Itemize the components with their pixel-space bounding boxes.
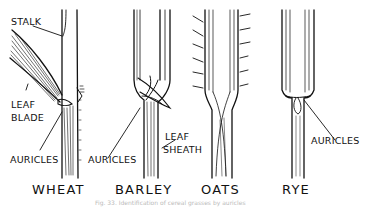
cereal-auricles-diagram: STALK LEAF BLADE AURICLES AURICLES LEAF … (0, 0, 383, 208)
figure-caption: Fig. 33. Identification of cereal grasse… (95, 199, 246, 206)
wheat-drawing (10, 10, 84, 178)
rye-drawing (282, 10, 335, 178)
label-leaf-blade-2: BLADE (11, 113, 44, 123)
plant-name-rye: RYE (282, 182, 310, 197)
plant-name-oats: OATS (201, 182, 240, 197)
label-auricles-barley: AURICLES (88, 155, 136, 165)
line-drawing (0, 0, 383, 208)
label-leaf-blade-1: LEAF (11, 100, 35, 110)
label-auricles-rye: AURICLES (311, 136, 359, 146)
plant-name-barley: BARLEY (115, 182, 172, 197)
label-leaf-sheath-1: LEAF (165, 132, 189, 142)
plant-name-wheat: WHEAT (32, 182, 85, 197)
label-stalk: STALK (11, 17, 41, 27)
label-leaf-sheath-2: SHEATH (163, 145, 202, 155)
label-auricles-wheat: AURICLES (10, 155, 58, 165)
